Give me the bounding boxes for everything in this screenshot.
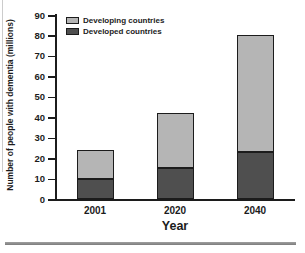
- legend-row: Developed countries: [66, 26, 164, 37]
- x-tick-label: 2020: [153, 205, 197, 216]
- legend-swatch-icon: [66, 17, 79, 24]
- bar-segment: [77, 150, 114, 179]
- y-axis-line: [55, 14, 57, 199]
- y-tick-label: 90: [23, 11, 45, 21]
- y-tick: [48, 97, 55, 99]
- x-tick-label: 2040: [233, 205, 277, 216]
- x-tick-label: 2001: [73, 205, 117, 216]
- y-tick: [48, 15, 55, 17]
- legend-row: Developing countries: [66, 15, 164, 26]
- y-tick: [48, 56, 55, 58]
- y-tick-label: 50: [23, 92, 45, 102]
- bottom-divider: [5, 242, 296, 245]
- y-tick: [48, 199, 55, 201]
- y-tick: [48, 158, 55, 160]
- plot-area: Number of people with dementia (millions…: [0, 0, 305, 220]
- y-tick: [48, 138, 55, 140]
- bar-segment: [157, 113, 194, 168]
- bar-segment: [157, 168, 194, 199]
- y-tick: [48, 117, 55, 119]
- dementia-chart-figure: Number of people with dementia (millions…: [0, 0, 305, 253]
- legend-label: Developed countries: [83, 26, 162, 37]
- y-tick-label: 60: [23, 72, 45, 82]
- x-axis-line: [48, 199, 295, 201]
- y-tick-label: 0: [23, 195, 45, 205]
- bar-segment: [237, 35, 274, 152]
- legend: Developing countriesDeveloped countries: [66, 15, 164, 37]
- y-tick-label: 80: [23, 31, 45, 41]
- y-tick: [48, 35, 55, 37]
- y-tick-label: 20: [23, 154, 45, 164]
- y-tick-label: 40: [23, 113, 45, 123]
- y-tick-label: 30: [23, 133, 45, 143]
- bar-segment: [237, 152, 274, 199]
- legend-swatch-icon: [66, 28, 79, 35]
- legend-label: Developing countries: [83, 15, 164, 26]
- y-tick: [48, 179, 55, 181]
- y-tick-label: 10: [23, 174, 45, 184]
- y-tick-label: 70: [23, 51, 45, 61]
- x-axis-title: Year: [162, 219, 188, 233]
- y-tick: [48, 76, 55, 78]
- bar-segment: [77, 179, 114, 199]
- y-axis-label: Number of people with dementia (millions…: [5, 10, 17, 200]
